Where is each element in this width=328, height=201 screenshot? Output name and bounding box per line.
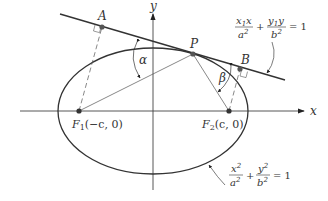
label-beta: β bbox=[218, 71, 226, 85]
tangent-leader-arrow bbox=[267, 42, 274, 73]
point-p bbox=[190, 51, 195, 56]
tangent-equation: x1x a2 + y1y b2 = 1 bbox=[235, 15, 307, 40]
svg-text:b2: b2 bbox=[271, 28, 282, 40]
label-f1: F1(−c, 0) bbox=[71, 118, 123, 132]
svg-text:= 1: = 1 bbox=[289, 21, 307, 32]
svg-text:b2: b2 bbox=[257, 176, 268, 188]
label-alpha: α bbox=[139, 53, 147, 67]
ellipse-reflection-diagram: x y A P B α β F1(−c, 0) F2(c, 0) x1x a2 … bbox=[0, 0, 328, 201]
svg-text:a2: a2 bbox=[230, 176, 241, 188]
svg-text:+: + bbox=[256, 21, 264, 32]
focus-f1 bbox=[76, 108, 81, 113]
focus-f2 bbox=[226, 108, 231, 113]
label-f2: F2(c, 0) bbox=[201, 118, 243, 132]
focal-radius-f1p bbox=[79, 54, 193, 111]
x-axis-label: x bbox=[310, 104, 317, 118]
y-axis-label: y bbox=[149, 0, 157, 13]
label-p: P bbox=[189, 37, 199, 51]
label-b: B bbox=[240, 53, 250, 67]
point-b bbox=[237, 66, 242, 71]
svg-text:+: + bbox=[246, 170, 254, 181]
svg-text:y2: y2 bbox=[257, 162, 269, 174]
svg-text:x1x: x1x bbox=[236, 15, 252, 28]
svg-text:x2: x2 bbox=[231, 162, 242, 174]
label-a: A bbox=[97, 9, 107, 23]
ellipse-equation: x2 a2 + y2 b2 = 1 bbox=[229, 162, 291, 188]
svg-text:y1y: y1y bbox=[267, 15, 284, 28]
point-a bbox=[99, 24, 104, 29]
svg-text:= 1: = 1 bbox=[273, 170, 291, 181]
ellipse-leader-arrow bbox=[209, 165, 225, 185]
svg-text:a2: a2 bbox=[238, 28, 249, 40]
